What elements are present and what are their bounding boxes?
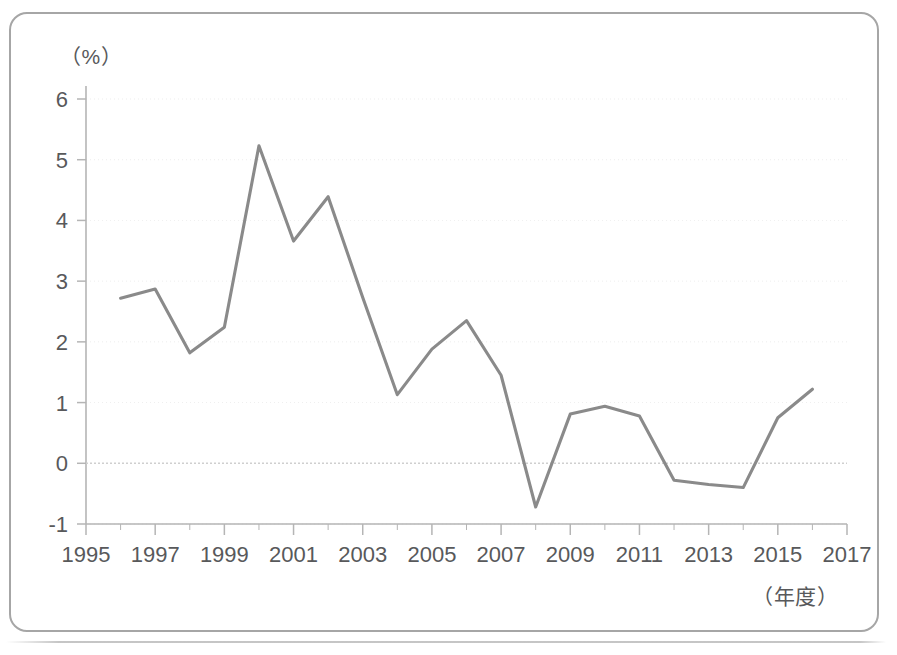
y-tick-label-3: 3 [56, 269, 68, 294]
y-axis-ticks-group [77, 99, 86, 524]
x-tick-label-1997: 1997 [131, 542, 180, 567]
y-tick-label--1: -1 [48, 512, 68, 537]
y-tick-label-2: 2 [56, 330, 68, 355]
x-tick-label-2015: 2015 [753, 542, 802, 567]
x-tick-label-2017: 2017 [823, 542, 872, 567]
x-tick-label-2013: 2013 [684, 542, 733, 567]
x-tick-label-2005: 2005 [407, 542, 456, 567]
data-series-line [121, 146, 813, 507]
x-tick-label-2011: 2011 [616, 542, 663, 567]
y-tick-label-5: 5 [56, 148, 68, 173]
y-tick-label-0: 0 [56, 451, 68, 476]
x-tick-label-1999: 1999 [200, 542, 249, 567]
y-tick-label-6: 6 [56, 87, 68, 112]
x-axis-tick-labels: 1995199719992001200320052007200920112013… [62, 542, 872, 567]
y-axis-tick-labels: 6543210-1 [48, 87, 68, 537]
gridlines-group [86, 99, 847, 524]
y-tick-label-1: 1 [56, 391, 68, 416]
x-axis-ticks-group [86, 524, 847, 535]
x-tick-label-1995: 1995 [62, 542, 111, 567]
x-tick-label-2001: 2001 [269, 542, 318, 567]
chart-screenshot: （%） （年度） 6543210-1 199519971999200120032… [0, 0, 897, 655]
x-tick-label-2003: 2003 [338, 542, 387, 567]
line-chart-plot: 6543210-1 199519971999200120032005200720… [0, 0, 897, 655]
chart-svg: 6543210-1 199519971999200120032005200720… [0, 0, 897, 655]
y-tick-label-4: 4 [56, 208, 68, 233]
x-tick-label-2007: 2007 [477, 542, 526, 567]
x-tick-label-2009: 2009 [546, 542, 595, 567]
